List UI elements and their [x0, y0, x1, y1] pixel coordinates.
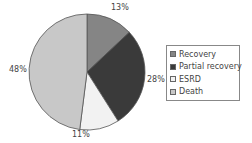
- label-partial-recovery: 28%: [147, 75, 165, 84]
- swatch-death-icon: [170, 89, 176, 95]
- label-death: 48%: [9, 65, 27, 74]
- legend-label: Recovery: [179, 50, 216, 59]
- legend-label: ESRD: [179, 75, 201, 84]
- label-recovery: 13%: [111, 3, 129, 12]
- legend-item-recovery: Recovery: [170, 48, 236, 61]
- legend: Recovery Partial recovery ESRD Death: [166, 45, 240, 101]
- label-esrd: 11%: [72, 130, 90, 139]
- legend-item-death: Death: [170, 86, 236, 99]
- swatch-esrd-icon: [170, 76, 176, 82]
- legend-item-esrd: ESRD: [170, 73, 236, 86]
- legend-item-partial-recovery: Partial recovery: [170, 61, 236, 74]
- pie-slice-death: [29, 14, 87, 130]
- legend-label: Death: [179, 87, 203, 96]
- legend-label: Partial recovery: [179, 62, 242, 71]
- swatch-recovery-icon: [170, 51, 176, 57]
- swatch-partial-recovery-icon: [170, 64, 176, 70]
